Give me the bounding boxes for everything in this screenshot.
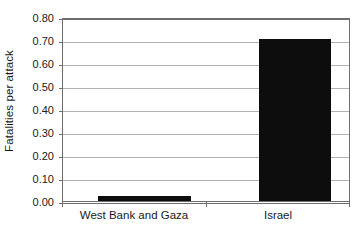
bar-chart: Fatalities per attack 0.000.100.200.300.… [0,0,362,237]
x-axis-tick-label: Israel [264,209,292,221]
bar [98,196,191,201]
y-axis-tick-label: 0.80 [33,12,54,24]
y-axis-tick-label: 0.60 [33,58,54,70]
y-axis-tick-label: 0.00 [33,196,54,208]
y-axis-tickmark [59,88,63,89]
y-axis-tick-label: 0.30 [33,127,54,139]
y-axis-title: Fatalities per attack [0,0,18,202]
plot-area [62,18,350,202]
gridline [63,19,349,20]
y-axis-tick-labels: 0.000.100.200.300.400.500.600.700.80 [18,18,58,202]
x-axis-tick-left [62,202,63,207]
x-axis-category-divider-tick [206,202,207,207]
y-axis-tickmark [59,42,63,43]
y-axis-tickmark [59,134,63,135]
y-axis-tick-label: 0.10 [33,173,54,185]
y-axis-tickmark [59,19,63,20]
y-axis-tickmark [59,157,63,158]
y-axis-tickmark [59,180,63,181]
bar [259,39,331,201]
y-axis-tickmark [59,111,63,112]
y-axis-tick-label: 0.20 [33,150,54,162]
x-axis-tick-labels: West Bank and GazaIsrael [62,209,350,229]
y-axis-tick-label: 0.40 [33,104,54,116]
y-axis-tick-label: 0.50 [33,81,54,93]
x-axis-tick-label: West Bank and Gaza [80,209,188,221]
x-axis-tick-right [349,202,350,207]
y-axis-tickmark [59,65,63,66]
y-axis-title-text: Fatalities per attack [3,50,15,152]
y-axis-tick-label: 0.70 [33,35,54,47]
